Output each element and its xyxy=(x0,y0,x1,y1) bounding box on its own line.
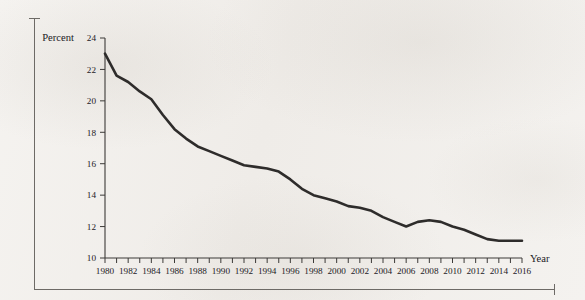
x-tick-label: 1980 xyxy=(96,266,115,276)
y-axis-unit-label: Percent xyxy=(42,32,74,43)
x-tick-label: 1992 xyxy=(235,266,254,276)
x-tick-label: 1994 xyxy=(258,266,277,276)
x-tick-label: 1984 xyxy=(142,266,161,276)
y-tick-label: 20 xyxy=(87,96,97,106)
x-tick-label: 2000 xyxy=(327,266,346,276)
x-tick-label: 2010 xyxy=(443,266,462,276)
line-chart-plot: 1012141618202224 Percent 198019821984198… xyxy=(0,0,585,300)
y-axis-ticks xyxy=(100,38,105,258)
x-tick-label: 2002 xyxy=(351,266,370,276)
x-tick-label: 1990 xyxy=(212,266,231,276)
x-axis: 1980198219841986198819901992199419961998… xyxy=(96,253,550,276)
y-axis: 1012141618202224 Percent xyxy=(42,32,105,263)
x-tick-label: 2004 xyxy=(374,266,393,276)
y-tick-label: 14 xyxy=(87,190,97,200)
y-tick-label: 10 xyxy=(87,253,97,263)
x-tick-label: 2016 xyxy=(513,266,532,276)
x-axis-tick-labels: 1980198219841986198819901992199419961998… xyxy=(96,266,532,276)
y-tick-label: 18 xyxy=(87,128,97,138)
y-axis-tick-labels: 1012141618202224 xyxy=(87,33,97,263)
y-tick-label: 16 xyxy=(87,159,97,169)
x-tick-label: 2014 xyxy=(490,266,509,276)
figure-container: 1012141618202224 Percent 198019821984198… xyxy=(0,0,585,300)
x-tick-label: 1988 xyxy=(188,266,207,276)
x-tick-label: 1982 xyxy=(119,266,138,276)
x-axis-title: Year xyxy=(530,253,550,264)
x-tick-label: 1998 xyxy=(304,266,323,276)
y-tick-label: 22 xyxy=(87,65,97,75)
x-tick-label: 2012 xyxy=(466,266,485,276)
x-axis-ticks xyxy=(105,258,522,263)
y-tick-label: 12 xyxy=(87,222,97,232)
x-tick-label: 1986 xyxy=(165,266,184,276)
data-series-line xyxy=(105,54,522,241)
x-tick-label: 2006 xyxy=(397,266,416,276)
y-tick-label: 24 xyxy=(87,33,97,43)
x-tick-label: 2008 xyxy=(420,266,439,276)
x-tick-label: 1996 xyxy=(281,266,300,276)
